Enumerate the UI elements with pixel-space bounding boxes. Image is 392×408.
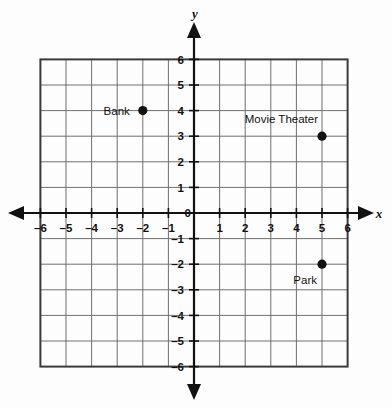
x-axis-tick-label: –6 [34, 222, 47, 234]
x-axis-tick-label: –2 [136, 222, 149, 234]
y-axis-tick-label: 3 [178, 130, 184, 142]
y-axis-tick-label: –1 [171, 233, 184, 245]
axes [8, 22, 374, 400]
x-axis-tick-label: –5 [60, 222, 73, 234]
x-axis-right-arrowhead [358, 206, 374, 220]
y-axis-down-arrowhead [187, 384, 201, 400]
y-axis-tick-label: –5 [171, 335, 184, 347]
point-label-movie-theater: Movie Theater [245, 113, 318, 125]
x-axis-tick-label: 6 [344, 222, 350, 234]
y-axis-tick-label: 1 [178, 182, 185, 194]
point-label-park: Park [293, 274, 317, 286]
origin-zero-label: 0 [185, 207, 191, 219]
x-axis-tick-label: 3 [268, 222, 274, 234]
x-axis-tick-label: 5 [319, 222, 326, 234]
y-axis-tick-label: 5 [178, 79, 185, 91]
plotted-point-bank: Bank [104, 105, 148, 117]
x-axis-tick-label: 1 [216, 222, 223, 234]
x-axis-tick-labels: –6–5–4–3–2–1123456 [34, 222, 351, 234]
x-axis-tick-label: 4 [293, 222, 300, 234]
y-axis-tick-label: –6 [171, 361, 184, 373]
x-axis-tick-label: 2 [242, 222, 248, 234]
y-axis-tick-label: 4 [178, 105, 185, 117]
coordinate-grid-svg: –6–5–4–3–2–1123456 654321–1–2–3–4–5–6 0 … [0, 0, 392, 408]
y-axis-tick-label: –2 [171, 258, 184, 270]
y-axis-up-arrowhead [187, 22, 201, 38]
x-axis-tick-label: –3 [111, 222, 124, 234]
coordinate-plane-figure: –6–5–4–3–2–1123456 654321–1–2–3–4–5–6 0 … [0, 0, 392, 408]
origin-label: 0 [185, 207, 191, 219]
x-axis-tick-label: –4 [85, 222, 98, 234]
point-marker [317, 260, 326, 269]
plotted-points: BankMovie TheaterPark [104, 105, 327, 286]
point-marker [317, 132, 326, 141]
y-axis-name-label: y [190, 6, 198, 21]
x-axis-name-label: x [375, 206, 383, 221]
y-axis-tick-label: 2 [178, 156, 184, 168]
y-axis-tick-label: –3 [171, 284, 184, 296]
x-axis-left-arrowhead [8, 206, 24, 220]
y-axis-tick-label: 6 [178, 54, 184, 66]
y-axis-tick-label: –4 [171, 310, 184, 322]
point-label-bank: Bank [104, 105, 130, 117]
point-marker [138, 106, 147, 115]
